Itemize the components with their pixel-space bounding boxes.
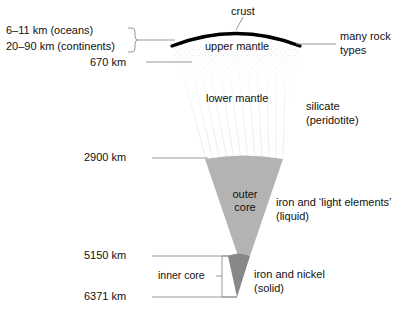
label-outer-core-line1: outer — [224, 188, 266, 201]
depth-label-670km: 670 km — [90, 56, 126, 69]
composition-inner-core-line2: (solid) — [254, 282, 284, 295]
depth-label-6371km: 6371 km — [84, 290, 126, 303]
label-lower-mantle: lower mantle — [206, 92, 268, 105]
earth-cross-section-diagram: 6–11 km (oceans) 20–90 km (continents) 6… — [0, 0, 414, 318]
inner-core-shape — [228, 254, 250, 298]
label-outer-core-line2: core — [224, 201, 266, 214]
label-crust: crust — [231, 5, 255, 18]
label-crust-thickness-oceans: 6–11 km (oceans) — [6, 24, 93, 37]
composition-mantle-line1: silicate — [306, 100, 340, 113]
composition-outer-core-line1: iron and ‘light elements’ — [276, 196, 392, 209]
composition-mantle-line2: (peridotite) — [306, 114, 359, 127]
depth-label-5150km: 5150 km — [84, 249, 126, 262]
label-crust-thickness-continents: 20–90 km (continents) — [6, 40, 115, 53]
label-inner-core: inner core — [158, 269, 205, 282]
composition-crust-line2: types — [340, 44, 366, 57]
label-upper-mantle: upper mantle — [205, 40, 269, 53]
depth-label-2900km: 2900 km — [84, 151, 126, 164]
composition-outer-core-line2: (liquid) — [276, 210, 309, 223]
composition-crust-line1: many rock — [340, 30, 391, 43]
upper-mantle-texture — [150, 30, 340, 90]
composition-inner-core-line1: iron and nickel — [254, 268, 325, 281]
